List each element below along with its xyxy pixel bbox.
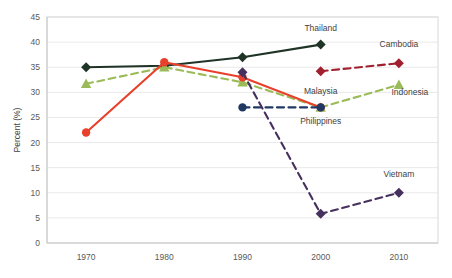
series-label-thailand: Thailand	[304, 23, 337, 33]
data-point-marker	[238, 103, 246, 111]
y-tick-label: 45	[31, 12, 41, 22]
x-tick-label: 2000	[311, 252, 330, 262]
x-tick-label: 2010	[389, 252, 408, 262]
y-tick-label: 35	[31, 62, 41, 72]
series-label-indonesia: Indonesia	[391, 87, 428, 97]
y-tick-label: 15	[31, 163, 41, 173]
y-tick-label: 10	[31, 188, 41, 198]
y-tick-label: 0	[35, 238, 40, 248]
y-axis-title: Percent (%)	[12, 107, 22, 152]
data-point-marker	[160, 58, 168, 66]
x-tick-label: 1970	[77, 252, 96, 262]
x-tick-label: 1980	[155, 252, 174, 262]
y-tick-label: 25	[31, 112, 41, 122]
y-tick-label: 20	[31, 138, 41, 148]
line-chart: 05101520253035404519701980199020002010Pe…	[0, 0, 452, 278]
series-label-philippines: Philippines	[300, 116, 341, 126]
series-label-vietnam: Vietnam	[383, 169, 414, 179]
y-tick-label: 30	[31, 87, 41, 97]
series-label-malaysia: Malaysia	[304, 86, 338, 96]
data-point-marker	[82, 128, 90, 136]
x-tick-label: 1990	[233, 252, 252, 262]
data-point-marker	[317, 103, 325, 111]
series-label-cambodia: Cambodia	[380, 39, 419, 49]
plot-area	[47, 17, 438, 243]
chart-canvas: 05101520253035404519701980199020002010Pe…	[0, 0, 452, 278]
y-tick-label: 5	[35, 213, 40, 223]
y-tick-label: 40	[31, 37, 41, 47]
